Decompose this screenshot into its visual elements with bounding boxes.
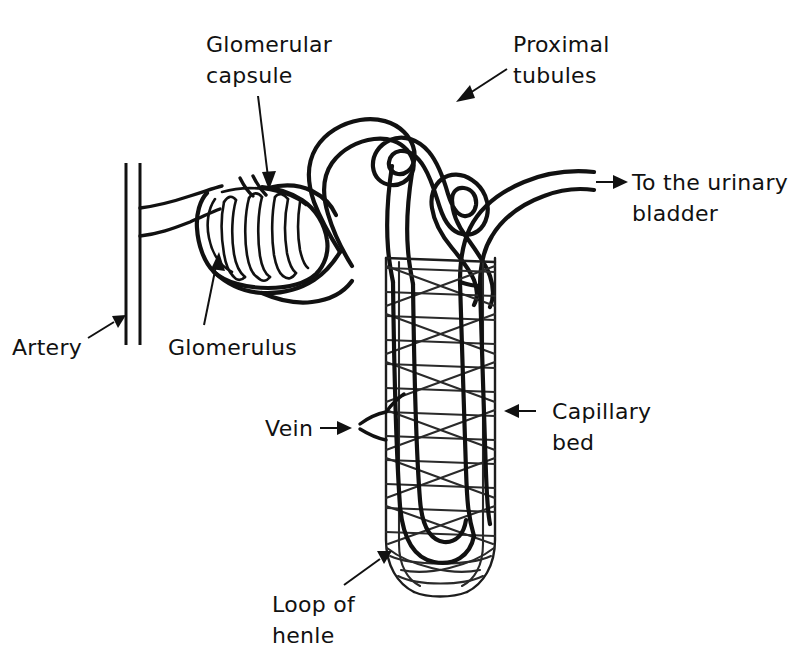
artery-label: Artery bbox=[12, 335, 82, 360]
urinary-bladder-label-line2: bladder bbox=[632, 201, 719, 226]
proximal-tubules-label-line1: Proximal bbox=[513, 32, 610, 57]
glomerulus-label: Glomerulus bbox=[168, 335, 297, 360]
nephron-illustration: Glomerular capsule Proximal tubules To t… bbox=[0, 0, 788, 666]
capillary-bed-label-line1: Capillary bbox=[552, 399, 651, 424]
urinary-bladder-label-line1: To the urinary bbox=[631, 170, 788, 195]
loop-of-henle-label-line2: henle bbox=[272, 623, 335, 648]
nephron-diagram: Glomerular capsule Proximal tubules To t… bbox=[0, 0, 788, 666]
capillary-bed-label-line2: bed bbox=[552, 430, 594, 455]
glomerular-capsule-label-line2: capsule bbox=[206, 63, 293, 88]
loop-of-henle-label-line1: Loop of bbox=[272, 592, 356, 617]
vein-label: Vein bbox=[265, 416, 313, 441]
proximal-tubules-label-line2: tubules bbox=[513, 63, 597, 88]
glomerular-capsule-label-line1: Glomerular bbox=[206, 32, 333, 57]
